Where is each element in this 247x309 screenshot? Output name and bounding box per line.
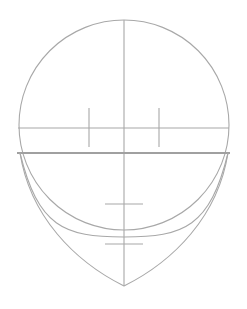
face-guide-drawing — [0, 0, 247, 309]
